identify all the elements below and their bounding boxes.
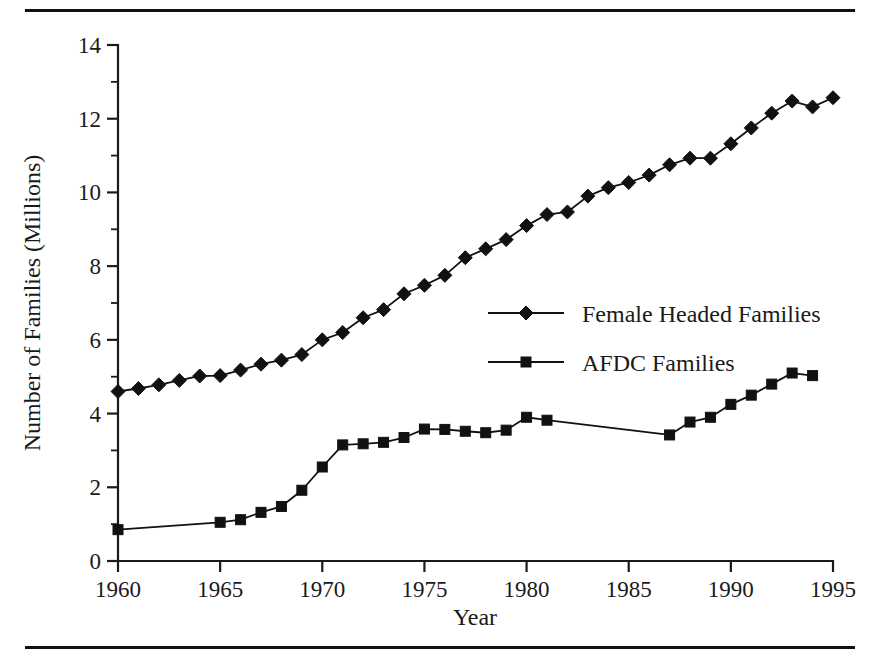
y-tick-label: 4 — [90, 402, 102, 427]
legend-label: AFDC Families — [582, 350, 735, 376]
y-tick-label: 10 — [78, 180, 101, 205]
data-point — [254, 357, 268, 371]
data-point — [542, 415, 552, 425]
data-point — [111, 384, 125, 398]
data-point — [172, 373, 186, 387]
data-point — [481, 428, 491, 438]
y-axis: 02468101214 — [78, 33, 118, 574]
x-tick-label: 1975 — [401, 577, 447, 602]
data-point — [663, 158, 677, 172]
data-point — [297, 485, 307, 495]
data-point — [642, 168, 656, 182]
data-point — [419, 424, 429, 434]
data-point — [705, 412, 715, 422]
x-tick-label: 1985 — [606, 577, 652, 602]
data-point — [256, 507, 266, 517]
x-tick-label: 1990 — [708, 577, 754, 602]
data-point — [213, 369, 227, 383]
data-point — [479, 242, 493, 256]
legend-item-1: Female Headed Families — [488, 301, 821, 327]
data-point — [356, 311, 370, 325]
data-point — [236, 515, 246, 525]
data-point — [806, 100, 820, 114]
data-point — [683, 151, 697, 165]
data-point — [338, 440, 348, 450]
data-point — [785, 94, 799, 108]
x-tick-label: 1995 — [810, 577, 856, 602]
chart-legend: Female Headed FamiliesAFDC Families — [488, 301, 821, 376]
data-point — [440, 424, 450, 434]
series-line — [118, 373, 813, 530]
data-point — [826, 91, 840, 105]
data-point — [685, 417, 695, 427]
data-point — [358, 439, 368, 449]
data-point — [746, 390, 756, 400]
data-point — [520, 219, 534, 233]
y-tick-label: 6 — [90, 328, 102, 353]
data-point — [499, 233, 513, 247]
legend-item-2: AFDC Families — [488, 350, 735, 376]
data-point — [417, 278, 431, 292]
data-point — [622, 175, 636, 189]
x-tick-label: 1965 — [197, 577, 243, 602]
y-axis-title: Number of Families (Millions) — [19, 155, 45, 452]
legend-marker — [521, 357, 531, 367]
data-point — [460, 426, 470, 436]
data-point — [193, 369, 207, 383]
x-tick-label: 1980 — [504, 577, 550, 602]
chart-figure: 02468101214 1960196519701975198019851990… — [0, 0, 875, 667]
data-point — [295, 348, 309, 362]
y-tick-label: 2 — [90, 475, 102, 500]
data-point — [152, 378, 166, 392]
data-point — [726, 399, 736, 409]
data-point — [665, 430, 675, 440]
x-tick-label: 1970 — [299, 577, 345, 602]
line-chart: 02468101214 1960196519701975198019851990… — [0, 0, 875, 667]
x-axis: 19601965197019751980198519901995 — [95, 561, 856, 602]
data-point — [315, 333, 329, 347]
data-point — [601, 181, 615, 195]
data-point — [113, 525, 123, 535]
data-point — [501, 425, 511, 435]
legend-label: Female Headed Families — [582, 301, 821, 327]
y-tick-label: 14 — [78, 33, 102, 58]
y-tick-label: 8 — [90, 254, 102, 279]
series-2 — [113, 368, 818, 535]
y-tick-label: 0 — [90, 549, 102, 574]
data-point — [765, 106, 779, 120]
data-point — [131, 382, 145, 396]
y-tick-label: 12 — [78, 107, 101, 132]
data-point — [215, 517, 225, 527]
data-point — [808, 371, 818, 381]
data-point — [399, 433, 409, 443]
data-point — [540, 208, 554, 222]
data-point — [703, 151, 717, 165]
x-tick-label: 1960 — [95, 577, 141, 602]
legend-marker — [519, 306, 533, 320]
data-point — [787, 368, 797, 378]
data-point — [276, 501, 286, 511]
data-point — [317, 462, 327, 472]
data-point — [767, 379, 777, 389]
x-axis-title: Year — [453, 604, 497, 630]
data-point — [522, 412, 532, 422]
data-point — [336, 325, 350, 339]
data-point — [234, 363, 248, 377]
data-point — [379, 437, 389, 447]
data-point — [274, 353, 288, 367]
